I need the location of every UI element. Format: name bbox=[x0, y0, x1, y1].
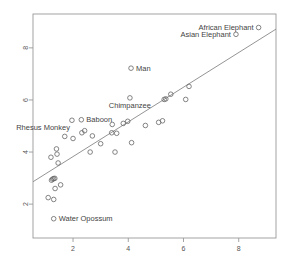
chart-canvas: 2468 2468 Water OpossumRhesus MonkeyBabo… bbox=[0, 0, 291, 272]
scatter-plot-figure: 2468 2468 Water OpossumRhesus MonkeyBabo… bbox=[0, 0, 291, 272]
x-tick-label: 6 bbox=[182, 245, 186, 252]
point-label: Water Opossum bbox=[59, 214, 113, 223]
y-tick-label: 8 bbox=[22, 46, 29, 50]
y-tick-label: 4 bbox=[22, 150, 29, 154]
point-label: African Elephant bbox=[199, 23, 255, 32]
point-label: Baboon bbox=[86, 115, 112, 124]
figure-background bbox=[0, 0, 291, 272]
x-tick-label: 8 bbox=[237, 245, 241, 252]
x-tick-label: 4 bbox=[126, 245, 130, 252]
point-label: Man bbox=[136, 64, 151, 73]
y-tick-label: 6 bbox=[22, 98, 29, 102]
y-tick-label: 2 bbox=[22, 202, 29, 206]
x-tick-label: 2 bbox=[71, 245, 75, 252]
point-label: Rhesus Monkey bbox=[16, 123, 70, 132]
point-label: Chimpanzee bbox=[109, 101, 151, 110]
